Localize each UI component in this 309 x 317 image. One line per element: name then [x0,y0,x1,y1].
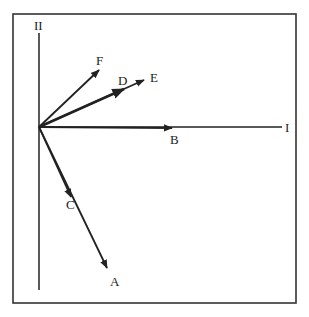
vector-label-f: F [96,53,103,68]
vector-label-e: E [150,70,158,85]
vector-f [39,70,99,127]
vector-b [39,127,172,128]
vector-c [39,127,71,197]
vectors-group: ABCDEF [39,53,179,289]
axis-label-ii: II [34,18,43,33]
vector-label-d: D [118,73,127,88]
vector-label-a: A [110,274,120,289]
vector-diagram: II I ABCDEF [0,0,309,317]
vector-label-c: C [66,197,75,212]
axis-label-i: I [285,120,289,135]
vector-e [39,80,144,127]
vector-label-b: B [170,132,179,147]
frame [13,14,296,303]
